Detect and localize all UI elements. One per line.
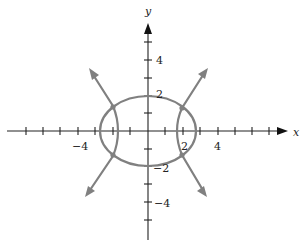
x-tick-label-2: 2	[181, 140, 188, 153]
arrow-upper-right-icon	[198, 68, 208, 79]
y-axis	[144, 30, 152, 240]
hyperbola-curve	[88, 72, 205, 193]
x-axis-arrow-icon	[277, 127, 288, 135]
x-tick-label-neg4: −4	[72, 140, 88, 153]
x-axis	[7, 127, 282, 135]
hyperbola-arrowheads	[85, 68, 208, 197]
y-tick-label-neg4: −4	[154, 197, 170, 210]
y-tick-label-4: 4	[156, 54, 163, 67]
arrow-lower-left-icon	[85, 186, 95, 197]
x-axis-label: x	[293, 126, 300, 139]
y-axis-arrow-icon	[144, 23, 152, 34]
coordinate-plane: y x −4 2 4 4 2 −2 −4	[0, 0, 306, 249]
graph-figure: y x −4 2 4 4 2 −2 −4	[0, 0, 306, 249]
x-tick-label-4: 4	[214, 140, 221, 153]
arrow-lower-right-icon	[197, 186, 207, 197]
y-tick-label-2: 2	[156, 88, 163, 101]
y-tick-label-neg2: −2	[153, 162, 169, 175]
y-axis-label: y	[144, 5, 152, 18]
arrow-upper-left-icon	[89, 68, 99, 80]
